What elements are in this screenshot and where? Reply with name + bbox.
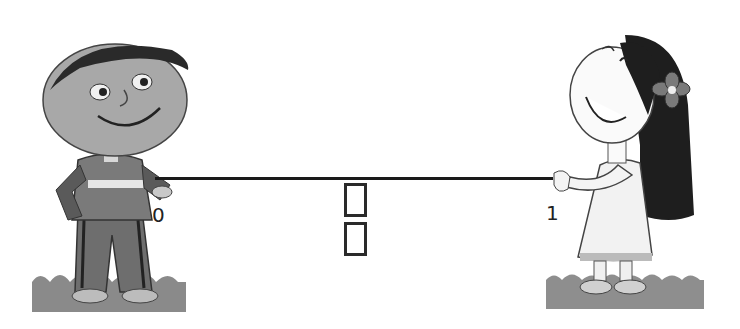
number-line bbox=[155, 177, 553, 180]
numerator-box[interactable] bbox=[344, 183, 367, 217]
number-line-start-label: 0 bbox=[152, 205, 165, 225]
girl-illustration bbox=[540, 25, 720, 315]
boy-illustration bbox=[20, 20, 220, 320]
denominator-box[interactable] bbox=[344, 222, 367, 256]
number-line-end-label: 1 bbox=[546, 203, 559, 223]
